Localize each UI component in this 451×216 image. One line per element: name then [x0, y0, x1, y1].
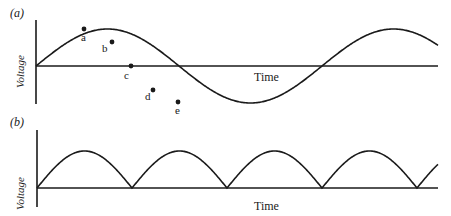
- point-c-marker: [129, 64, 134, 69]
- panel-b-ylabel: Voltage: [14, 177, 26, 210]
- point-d-marker: [151, 88, 156, 93]
- panel-b-label: (b): [10, 115, 24, 130]
- point-a-label: a: [81, 31, 86, 43]
- point-c-label: c: [124, 69, 129, 81]
- waveform-diagram: [0, 0, 451, 216]
- panel-a-label: (a): [10, 6, 24, 21]
- panel-a-ylabel: Voltage: [14, 55, 26, 88]
- panel-b-xlabel: Time: [254, 199, 279, 214]
- point-b-marker: [110, 40, 115, 45]
- panel-a-xlabel: Time: [254, 70, 279, 85]
- point-e-label: e: [175, 104, 180, 116]
- point-b-label: b: [102, 42, 108, 54]
- panel-b-rectified-curve: [37, 151, 438, 188]
- point-d-label: d: [145, 90, 151, 102]
